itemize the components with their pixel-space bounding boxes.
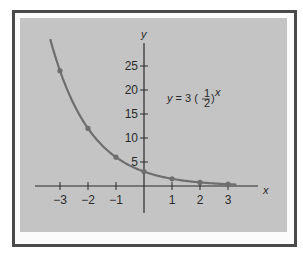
equation-annotation: y = 3 ( 1 2 ) x: [166, 86, 221, 109]
data-point: [113, 155, 118, 160]
svg-text:2: 2: [204, 97, 210, 109]
x-tick-label: 1: [169, 193, 176, 207]
x-tick-label: −3: [53, 193, 67, 207]
curve: [50, 39, 236, 187]
y-tick-label: 15: [125, 107, 139, 121]
x-axis-label: x: [262, 184, 269, 196]
y-tick-label: 25: [125, 59, 139, 73]
data-point: [141, 169, 146, 174]
x-tick-label: −1: [109, 193, 123, 207]
data-point: [85, 126, 90, 131]
exponential-curve: [50, 39, 236, 184]
svg-text:x: x: [214, 86, 221, 98]
data-point: [169, 176, 174, 181]
axes: −3−2−1123510152025: [35, 43, 258, 213]
x-tick-label: −2: [81, 193, 95, 207]
x-tick-label: 3: [225, 193, 232, 207]
y-axis-label: y: [140, 28, 148, 40]
y-tick-label: 10: [125, 131, 139, 145]
chart-svg: −3−2−1123510152025 y x y = 3 ( 1 2 ) x: [0, 0, 303, 256]
svg-text:y = 3 (: y = 3 (: [166, 92, 198, 104]
data-point: [225, 182, 230, 187]
y-tick-label: 20: [125, 83, 139, 97]
data-point: [57, 68, 62, 73]
x-tick-label: 2: [197, 193, 204, 207]
data-point: [197, 180, 202, 185]
